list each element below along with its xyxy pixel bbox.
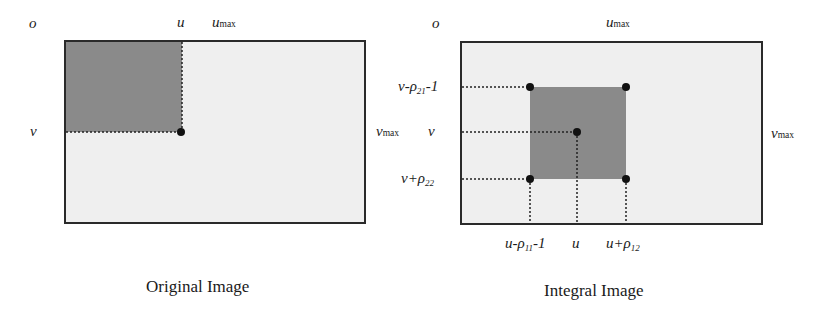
v-bot-label: v+ρ22 [401,171,434,186]
umax-label-right: umax [606,15,630,30]
origin-label-right: o [432,16,440,31]
point-uv [177,128,185,136]
v-bot-pre: v+ρ [401,170,425,186]
caption-original-image: Original Image [146,278,249,295]
u-left-pre: u-ρ [505,235,525,251]
caption-integral-image: Integral Image [544,282,644,299]
v-top-pre: v-ρ [398,78,417,94]
u-left-sub: 11 [525,243,533,253]
vmax-base: v [771,125,778,141]
v-top-label: v-ρ21-1 [398,79,438,94]
umax-sub: max [614,19,630,29]
v-top-post: -1 [426,78,439,94]
u-right-sub: 12 [631,243,640,253]
vmax-sub: max [383,128,399,138]
u-left-label: u-ρ11-1 [505,236,546,251]
u-label-left: u [177,15,185,30]
origin-label-left: o [29,16,37,31]
corner-bottom-right [622,175,630,183]
vmax-label-left: vmax [376,124,399,139]
v-bot-sub: 22 [425,178,434,188]
umax-label-left: umax [212,15,236,30]
u-left-post: -1 [533,235,546,251]
corner-top-left [526,83,534,91]
vmax-sub: max [778,130,794,140]
v-mid-label: v [428,124,435,139]
diagram-canvas [0,0,818,316]
corner-bottom-left [526,175,534,183]
umax-sub: max [220,19,236,29]
center-point [573,128,581,136]
umax-base: u [606,14,614,30]
umax-base: u [212,14,220,30]
original-image-panel [65,41,365,223]
vmax-label-right: vmax [771,126,794,141]
summed-region [66,42,182,132]
corner-top-right [622,83,630,91]
v-top-sub: 21 [417,86,426,96]
u-right-label: u+ρ12 [606,236,640,251]
integral-image-panel [461,42,762,224]
u-right-pre: u+ρ [606,235,631,251]
vmax-base: v [376,123,383,139]
u-mid-label: u [572,236,580,251]
v-label-left: v [30,124,37,139]
